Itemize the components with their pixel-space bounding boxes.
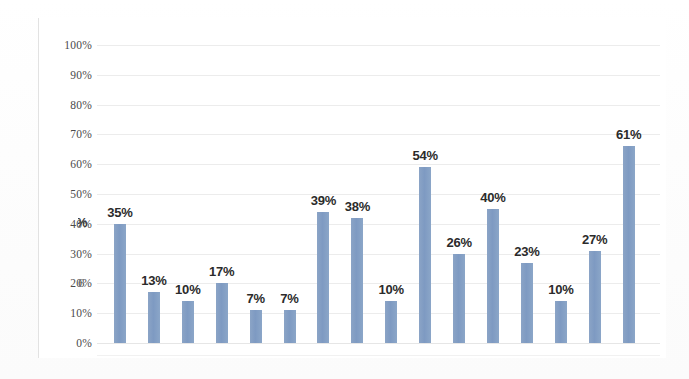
axis-baseline <box>97 343 660 344</box>
bar-slot: 26% <box>442 45 476 343</box>
bar-slot: 7% <box>239 45 273 343</box>
bar-slot: 27% <box>578 45 612 343</box>
gridline-below-baseline <box>97 355 660 356</box>
bar-slot: 61% <box>612 45 646 343</box>
bar-series-layer: 35%13%10%17%7%7%39%38%10%54%26%40%23%10%… <box>97 45 660 343</box>
y-tick-label-0: 0% <box>76 337 92 349</box>
bar-data-label: 10% <box>379 282 404 297</box>
y-tick-label-60: 60% <box>70 158 92 170</box>
bar-slot: 23% <box>510 45 544 343</box>
bar-slot: 7% <box>273 45 307 343</box>
bar-slot: 38% <box>340 45 374 343</box>
bar[interactable] <box>182 301 194 343</box>
bar-slot: 40% <box>476 45 510 343</box>
y-tick-label-50: 50% <box>70 188 92 200</box>
bar[interactable] <box>351 218 363 343</box>
y-tick-label-90: 90% <box>70 69 92 81</box>
bar[interactable] <box>385 301 397 343</box>
bar-data-label: 27% <box>582 232 607 247</box>
bar-chart-figure: 0%10%20%30%40%50%60%70%80%90%100% 35%13%… <box>0 0 689 379</box>
bar-slot: 54% <box>408 45 442 343</box>
bar-data-label: 61% <box>616 127 641 142</box>
bar-slot: 39% <box>306 45 340 343</box>
bar-data-label: 7% <box>280 291 298 306</box>
bar-data-label: 35% <box>107 205 132 220</box>
bar[interactable] <box>317 212 329 343</box>
bar[interactable] <box>487 209 499 343</box>
bar[interactable] <box>216 283 228 343</box>
bar[interactable] <box>250 310 262 343</box>
bar-slot: 10% <box>544 45 578 343</box>
bar-data-label: 39% <box>311 193 336 208</box>
bar[interactable] <box>114 224 126 343</box>
bar-slot: 13% <box>137 45 171 343</box>
y-tick-label-70: 70% <box>70 128 92 140</box>
bar-data-label: 40% <box>480 190 505 205</box>
bar-slot: 35% <box>103 45 137 343</box>
bar[interactable] <box>521 263 533 343</box>
bar-slot: 17% <box>205 45 239 343</box>
y-tick-label-80: 80% <box>70 99 92 111</box>
cropped-percent-glyph: % <box>78 215 88 230</box>
bar-data-label: 38% <box>345 199 370 214</box>
bar-data-label: 23% <box>514 244 539 259</box>
bar-data-label: 17% <box>209 264 234 279</box>
bar[interactable] <box>555 301 567 343</box>
bar[interactable] <box>623 146 635 343</box>
cropped-digit-glyph: 6 <box>78 275 85 291</box>
bar-data-label: 7% <box>246 291 264 306</box>
bar-data-label: 54% <box>412 148 437 163</box>
bar[interactable] <box>453 254 465 343</box>
y-tick-label-100: 100% <box>64 39 92 51</box>
bar-data-label: 10% <box>175 282 200 297</box>
bar-slot: 10% <box>374 45 408 343</box>
bar-slot: 10% <box>171 45 205 343</box>
bar[interactable] <box>589 251 601 343</box>
bar[interactable] <box>284 310 296 343</box>
bar-data-label: 13% <box>141 273 166 288</box>
bar[interactable] <box>148 292 160 343</box>
bar-data-label: 26% <box>446 235 471 250</box>
bar[interactable] <box>419 167 431 343</box>
bar-data-label: 10% <box>548 282 573 297</box>
cropped-left-label-fragments: % 6 <box>78 215 100 310</box>
